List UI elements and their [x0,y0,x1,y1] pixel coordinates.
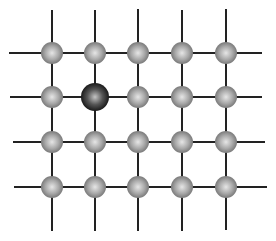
host-atom [171,131,193,153]
host-atom [171,176,193,198]
host-atom [41,131,63,153]
host-atom [84,42,106,64]
host-atom [171,42,193,64]
host-atom [41,42,63,64]
host-atom [41,86,63,108]
host-atom [127,176,149,198]
host-atom [84,176,106,198]
host-atom [215,131,237,153]
impurity-atom [81,83,109,111]
crystal-lattice-diagram [0,0,276,241]
host-atom [41,176,63,198]
host-atom [127,131,149,153]
host-atom [215,176,237,198]
host-atom [215,86,237,108]
host-atom [171,86,193,108]
host-atom [84,131,106,153]
host-atom [215,42,237,64]
host-atom [127,86,149,108]
host-atom [127,42,149,64]
